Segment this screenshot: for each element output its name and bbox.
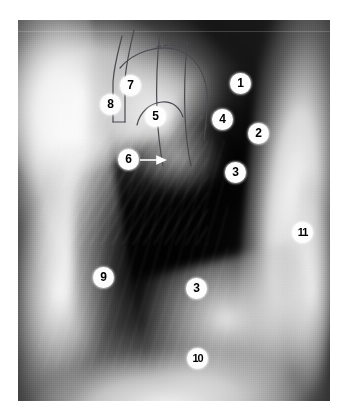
scan-seam-line: [18, 31, 330, 32]
marker-3a: 3: [225, 162, 246, 183]
lateral-chest-radiograph: [18, 20, 330, 401]
marker-7: 7: [120, 75, 141, 96]
figure-container: 12345678931011: [0, 0, 345, 420]
marker-11: 11: [292, 222, 313, 243]
marker-3b: 3: [186, 278, 207, 299]
vertebral-striations: [58, 115, 208, 245]
marker-6: 6: [118, 149, 139, 170]
marker-8: 8: [100, 94, 121, 115]
marker-5: 5: [145, 106, 166, 127]
marker-9: 9: [93, 267, 114, 288]
marker-1: 1: [230, 73, 251, 94]
marker-10: 10: [187, 348, 208, 369]
marker-2: 2: [248, 123, 269, 144]
marker-4: 4: [212, 109, 233, 130]
